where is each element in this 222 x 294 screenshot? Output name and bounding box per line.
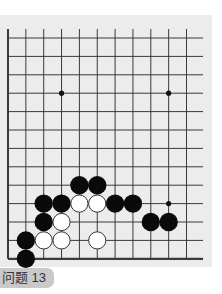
black-stone: [88, 176, 106, 194]
star-point-icon: [166, 91, 171, 96]
white-stone: [89, 232, 106, 249]
white-stone: [53, 232, 70, 249]
star-point-icon: [59, 91, 64, 96]
black-stone: [35, 213, 53, 231]
star-point-icon: [166, 201, 171, 206]
black-stone: [159, 213, 177, 231]
problem-label: 问题 13: [2, 270, 46, 285]
white-stone: [35, 232, 52, 249]
black-stone: [70, 176, 88, 194]
black-stone: [106, 194, 124, 212]
go-board[interactable]: [0, 0, 222, 294]
black-stone: [17, 231, 35, 249]
problem-label-tab: 问题 13: [0, 268, 54, 288]
black-stone: [35, 194, 53, 212]
white-stone: [53, 213, 70, 230]
black-stone: [142, 213, 160, 231]
white-stone: [71, 195, 88, 212]
black-stone: [17, 250, 35, 268]
white-stone: [89, 195, 106, 212]
black-stone: [52, 194, 70, 212]
black-stone: [124, 194, 142, 212]
